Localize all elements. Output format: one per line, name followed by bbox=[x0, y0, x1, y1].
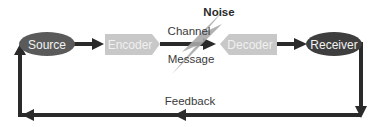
feedback-left-arrowhead bbox=[22, 109, 34, 121]
message-label: Message bbox=[168, 53, 215, 65]
decoder-label: Decoder bbox=[227, 38, 272, 52]
encoder-label: Encoder bbox=[108, 38, 153, 52]
feedback-line-right bbox=[351, 44, 361, 108]
receiver-label: Receiver bbox=[310, 38, 357, 52]
feedback-label: Feedback bbox=[165, 95, 216, 107]
communication-diagram: Source Encoder Decoder Receiver Channel … bbox=[0, 0, 379, 127]
arrow-decoder-receiver bbox=[277, 38, 307, 50]
feedback-mid-arrowhead bbox=[174, 109, 186, 121]
arrow-source-encoder bbox=[74, 38, 104, 50]
channel-label: Channel bbox=[168, 25, 211, 37]
noise-label: Noise bbox=[203, 6, 234, 18]
source-label: Source bbox=[28, 38, 66, 52]
